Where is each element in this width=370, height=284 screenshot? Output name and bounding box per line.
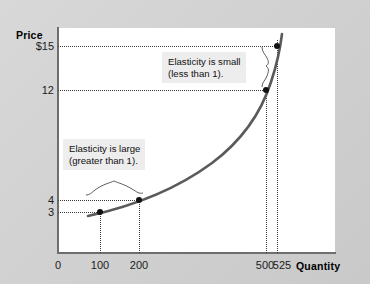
gridline-quantity-500 [266,91,267,253]
data-point-525-15 [274,43,280,49]
y-tick-label-3: 3 [12,207,54,218]
y-tick-label-4: 4 [12,195,54,206]
figure-page: $15 12 4 3 0 100 200 500 525 Price Quant… [0,0,370,284]
y-axis-line [57,27,59,254]
x-tick-label-200: 200 [125,260,153,271]
gridline-quantity-200 [139,201,140,253]
annotation-small-line2: (less than 1). [168,68,241,80]
x-tick-label-525: 525 [268,260,296,271]
data-point-100-3 [97,209,103,215]
annotation-small-line1: Elasticity is small [168,56,241,68]
y-tick-label-15: $15 [12,41,54,52]
y-tick-label-12: 12 [12,85,54,96]
gridline-price-3 [58,212,101,213]
x-tick-label-0: 0 [47,260,69,271]
y-axis-title: Price [16,29,43,41]
gridline-price-15 [58,46,277,47]
gridline-price-4 [58,200,139,201]
annotation-large-line1: Elasticity is large [69,143,140,155]
data-point-500-12 [263,87,269,93]
gridline-quantity-100 [100,213,101,253]
annotation-large-line2: (greater than 1). [69,155,140,167]
x-axis-title: Quantity [296,260,340,272]
gridline-quantity-525 [277,40,278,253]
annotation-small-elasticity: Elasticity is small (less than 1). [162,52,246,83]
annotation-large-elasticity: Elasticity is large (greater than 1). [63,139,145,170]
x-axis-line [57,252,336,254]
x-tick-label-100: 100 [86,260,114,271]
gridline-price-12 [58,90,267,91]
data-point-200-4 [136,197,142,203]
